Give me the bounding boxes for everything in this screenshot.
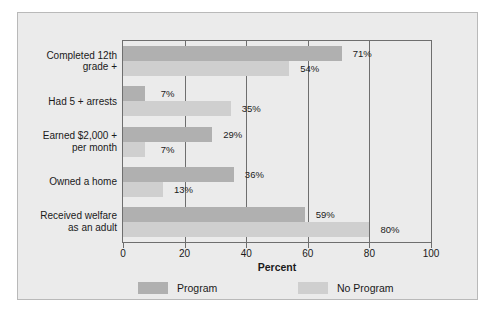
- bar: [123, 46, 342, 61]
- x-axis-tick-label: 60: [293, 248, 323, 259]
- x-axis-tick-label: 80: [354, 248, 384, 259]
- bar: [123, 222, 369, 237]
- x-axis-tick-label: 0: [108, 248, 138, 259]
- category-label: Had 5 + arrests: [21, 96, 117, 108]
- chart-legend: ProgramNo Program: [122, 281, 452, 297]
- category-label: Earned $2,000 +per month: [21, 130, 117, 153]
- category-label: Completed 12thgrade +: [21, 50, 117, 73]
- legend-item[interactable]: Program: [138, 281, 217, 295]
- legend-swatch: [138, 282, 168, 294]
- bar: [123, 101, 231, 116]
- plot-area: 71%54%7%35%29%7%36%13%59%80%: [122, 40, 432, 243]
- x-axis-tick-label: 20: [170, 248, 200, 259]
- bar-value-label: 71%: [342, 46, 376, 61]
- chart-figure: Completed 12thgrade +Had 5 + arrestsEarn…: [17, 12, 478, 300]
- bar: [123, 61, 289, 76]
- category-axis-labels: Completed 12thgrade +Had 5 + arrestsEarn…: [18, 40, 117, 243]
- x-axis-tick-label: 100: [416, 248, 446, 259]
- x-axis-tick-label: 40: [231, 248, 261, 259]
- bar: [123, 167, 234, 182]
- legend-label: No Program: [337, 282, 394, 294]
- bar: [123, 86, 145, 101]
- bar-value-label: 29%: [212, 127, 246, 142]
- x-axis: 020406080100: [122, 243, 432, 263]
- x-axis-title: Percent: [122, 261, 432, 273]
- bar: [123, 142, 145, 157]
- bar-value-label: 13%: [163, 182, 197, 197]
- bar-value-label: 7%: [145, 86, 179, 101]
- bar-value-label: 80%: [369, 222, 403, 237]
- bar-value-label: 36%: [234, 167, 268, 182]
- bar: [123, 207, 305, 222]
- legend-item[interactable]: No Program: [298, 281, 394, 295]
- legend-label: Program: [177, 282, 217, 294]
- bar: [123, 127, 212, 142]
- bar-value-label: 59%: [305, 207, 339, 222]
- bar-value-label: 54%: [289, 61, 323, 76]
- legend-swatch: [298, 282, 328, 294]
- bar: [123, 182, 163, 197]
- bar-value-label: 35%: [231, 101, 265, 116]
- bar-value-label: 7%: [145, 142, 179, 157]
- gridline: [369, 41, 370, 242]
- category-label: Owned a home: [21, 176, 117, 188]
- category-label: Received welfareas an adult: [21, 210, 117, 233]
